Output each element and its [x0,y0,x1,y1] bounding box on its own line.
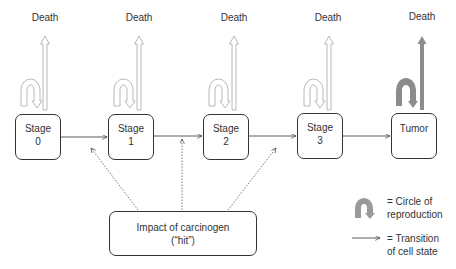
death-label-stage-2: Death [209,12,259,24]
death-label-stage-0: Death [20,12,70,24]
stage-2-box: Stage 2 [203,114,249,160]
legend-transition-line1: = Transition [387,232,439,245]
tumor-box: Tumor [391,113,437,159]
stage-2-label: Stage [213,122,239,135]
tumor-arrows [396,36,427,110]
stage-0-label: Stage [25,122,51,135]
tumor-label: Tumor [400,122,429,135]
legend-reproduction-line2: reproduction [387,208,443,221]
death-label-stage-3: Death [303,12,353,24]
carcinogen-impact-box: Impact of carcinogen (“hit”) [109,211,257,256]
impact-hit-label: (“hit”) [171,234,195,247]
death-label-tumor: Death [397,11,447,23]
impact-label: Impact of carcinogen [137,221,230,234]
legend-reproduction-text: = Circle of reproduction [387,195,443,221]
stage-1-label: Stage [118,122,144,135]
stage-3-number: 3 [317,134,323,147]
stage-1-number: 1 [128,135,134,148]
stage-0-arrows [21,36,50,110]
stage-1-arrows [114,36,144,110]
legend-reproduction-icon [355,198,375,219]
stage-2-arrows [209,36,239,110]
legend-transition-text: = Transition of cell state [387,232,439,258]
stage-0-box: Stage 0 [15,114,61,160]
stage-0-number: 0 [35,135,41,148]
stage-2-number: 2 [223,135,229,148]
legend-transition-line2: of cell state [387,245,439,258]
legend-reproduction-line1: = Circle of [387,195,443,208]
stage-3-box: Stage 3 [297,113,343,159]
death-label-stage-1: Death [114,12,164,24]
stage-1-box: Stage 1 [108,114,154,160]
stage-3-label: Stage [307,121,333,134]
stage-3-arrows [304,36,334,110]
